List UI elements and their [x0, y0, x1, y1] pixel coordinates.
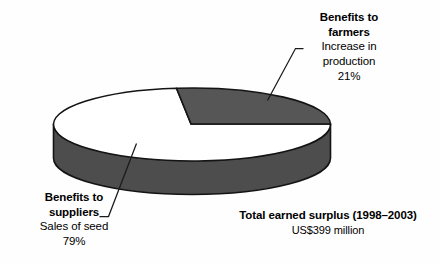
farmers-title-line-2: farmers	[274, 25, 424, 40]
suppliers-title-line-2: suppliers	[4, 205, 144, 220]
label-benefits-to-suppliers: Benefits to suppliers Sales of seed 79%	[4, 190, 144, 249]
pie-chart-figure: Benefits to farmers Increase in producti…	[0, 0, 439, 264]
suppliers-title-line-1: Benefits to	[4, 190, 144, 205]
suppliers-value-percent: 79%	[4, 234, 144, 249]
farmers-sub-line-2: production	[274, 54, 424, 69]
label-benefits-to-farmers: Benefits to farmers Increase in producti…	[274, 10, 424, 84]
farmers-title-line-1: Benefits to	[274, 10, 424, 25]
total-surplus-title: Total earned surplus (1998–2003)	[219, 208, 437, 223]
farmers-value-percent: 21%	[274, 69, 424, 84]
caption-total-earned-surplus: Total earned surplus (1998–2003) US$399 …	[219, 208, 437, 237]
suppliers-sub-line-1: Sales of seed	[4, 219, 144, 234]
pie-slice-farmers	[177, 88, 331, 124]
total-surplus-amount: US$399 million	[219, 223, 437, 237]
farmers-sub-line-1: Increase in	[274, 39, 424, 54]
